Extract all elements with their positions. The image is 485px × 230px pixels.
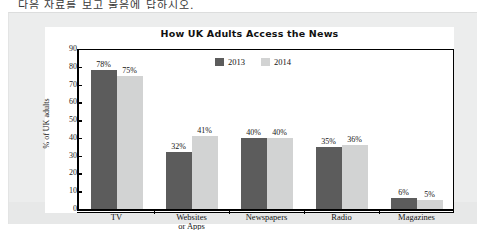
y-axis-tick-label: 70 <box>49 81 77 89</box>
x-axis-category-label: Magazines <box>398 213 435 222</box>
x-axis-line <box>77 209 454 211</box>
chart-legend: 2013 2014 <box>215 57 291 67</box>
bar-2014-newspapers: 40% <box>267 138 293 209</box>
chart-figure: How UK Adults Access the News % of UK ad… <box>45 27 454 213</box>
bar-group: 40%40%Newspapers <box>229 49 304 209</box>
legend-item-2014: 2014 <box>261 57 291 67</box>
x-axis-tick-mark <box>154 210 155 214</box>
y-axis-tick-label: 10 <box>49 187 77 195</box>
bar-2013-tv: 78% <box>91 70 117 209</box>
bar-group: 6%5%Magazines <box>379 49 454 209</box>
bar-value-label: 6% <box>398 188 409 197</box>
bar-2014-radio: 36% <box>342 145 368 209</box>
bar-value-label: 32% <box>171 142 186 151</box>
x-axis-category-label: TV <box>111 213 122 222</box>
legend-label-2013: 2013 <box>228 57 245 67</box>
legend-swatch-2013-icon <box>215 58 224 66</box>
bar-2013-radio: 35% <box>316 147 342 209</box>
bar-value-label: 35% <box>321 137 336 146</box>
y-axis-tick-label: 50 <box>49 116 77 124</box>
y-axis-tick-label: 0 <box>49 205 77 213</box>
bar-value-label: 5% <box>424 190 435 199</box>
y-axis-tick-label: 90 <box>49 45 77 53</box>
bar-value-label: 78% <box>96 60 111 69</box>
x-axis-tick-mark <box>379 210 380 214</box>
y-axis-tick-label: 20 <box>49 169 77 177</box>
bar-2014-tv: 75% <box>117 76 143 209</box>
y-axis-tick-label: 60 <box>49 98 77 106</box>
bar-pair: 32%41% <box>154 49 229 209</box>
bar-2013-websites-or-apps: 32% <box>166 152 192 209</box>
x-axis-category-label: Websitesor Apps <box>176 213 206 230</box>
bar-value-label: 75% <box>122 66 137 75</box>
scanned-top-text: 다음 자료를 보고 물음에 답하시오. <box>0 0 485 9</box>
bar-group: 78%75%TV <box>79 49 154 209</box>
x-axis-category-label: Newspapers <box>246 213 288 222</box>
y-axis-tick-mark <box>78 209 82 210</box>
scanned-top-text-label: 다음 자료를 보고 물음에 답하시오. <box>18 0 485 9</box>
legend-label-2014: 2014 <box>274 57 291 67</box>
bar-pair: 40%40% <box>229 49 304 209</box>
bar-value-label: 36% <box>347 135 362 144</box>
bar-2014-magazines: 5% <box>417 200 443 209</box>
x-axis-category-label: Radio <box>331 213 351 222</box>
plot-area: 78%75%TV32%41%Websitesor Apps40%40%Newsp… <box>79 49 454 209</box>
bar-pair: 35%36% <box>304 49 379 209</box>
x-axis-tick-mark <box>304 210 305 214</box>
chart-title: How UK Adults Access the News <box>45 28 454 39</box>
bar-group: 35%36%Radio <box>304 49 379 209</box>
bar-value-label: 40% <box>272 128 287 137</box>
bar-2013-newspapers: 40% <box>241 138 267 209</box>
bar-pair: 6%5% <box>379 49 454 209</box>
bar-value-label: 40% <box>246 128 261 137</box>
legend-swatch-2014-icon <box>261 58 270 66</box>
y-axis-tick-label: 30 <box>49 152 77 160</box>
legend-item-2013: 2013 <box>215 57 245 67</box>
bar-value-label: 41% <box>197 126 212 135</box>
y-axis-tick-label: 80 <box>49 63 77 71</box>
bar-2013-magazines: 6% <box>391 198 417 209</box>
bar-2014-websites-or-apps: 41% <box>192 136 218 209</box>
bar-pair: 78%75% <box>79 49 154 209</box>
bar-group: 32%41%Websitesor Apps <box>154 49 229 209</box>
chart-panel: How UK Adults Access the News % of UK ad… <box>8 12 477 224</box>
x-axis-tick-mark <box>229 210 230 214</box>
y-axis-tick-label: 40 <box>49 134 77 142</box>
